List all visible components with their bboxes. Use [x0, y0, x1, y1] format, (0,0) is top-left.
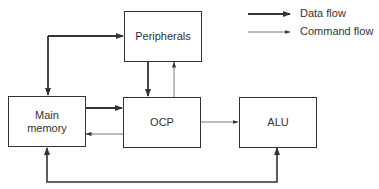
node-main-memory: Main memory	[8, 96, 86, 147]
edge-memory-peripherals	[48, 36, 123, 95]
node-main-memory-label: Main memory	[27, 109, 67, 135]
node-ocp-label: OCP	[150, 116, 174, 129]
legend-command-flow-label: Command flow	[300, 25, 373, 37]
node-alu-label: ALU	[267, 116, 288, 129]
node-alu: ALU	[239, 97, 317, 148]
legend-data-flow-label: Data flow	[300, 7, 346, 19]
node-peripherals-label: Peripherals	[135, 30, 191, 43]
node-peripherals: Peripherals	[124, 11, 202, 62]
node-ocp: OCP	[123, 97, 201, 148]
edge-memory-alu	[47, 148, 277, 182]
